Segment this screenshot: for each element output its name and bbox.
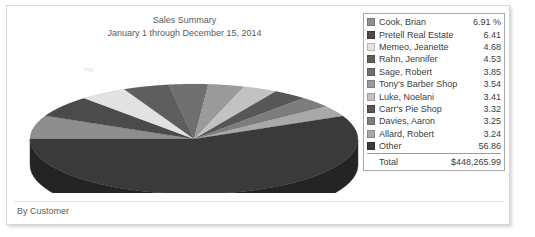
legend-item[interactable]: Allard, Robert3.24 [367,128,501,140]
chart-group-caption: By Customer [17,206,69,216]
pie-chart-svg [28,51,360,193]
legend-color-swatch [367,80,375,88]
legend-color-swatch [367,93,375,101]
chart-title-block: Sales Summary January 1 through December… [7,14,362,40]
report-frame: Sales Summary January 1 through December… [6,5,510,225]
page-title: Sales Summary [7,14,362,27]
legend-rows: Cook, Brian6.91 %Pretell Real Estate6.41… [367,16,501,168]
legend-item[interactable]: Memeo, Jeanette4.68 [367,41,501,53]
legend-item-label: Other [379,141,474,151]
legend-item-value: 56.86 [474,141,501,151]
legend-item[interactable]: Tony's Barber Shop3.54 [367,78,501,90]
legend-item[interactable]: Davies, Aaron3.25 [367,115,501,127]
legend-item-value: 4.53 [479,54,501,64]
legend-item-label: Davies, Aaron [379,116,479,126]
pie-chart[interactable]: 7% [28,51,360,193]
legend-item-label: Cook, Brian [379,17,469,27]
legend-item-label: Tony's Barber Shop [379,79,479,89]
legend-item[interactable]: Cook, Brian6.91 % [367,16,501,28]
legend-item-label: Pretell Real Estate [379,30,479,40]
legend-item-label: Memeo, Jeanette [379,42,479,52]
legend-total-label: Total [379,157,447,167]
legend-color-swatch [367,105,375,113]
legend-color-swatch [367,43,375,51]
legend-item-value: 3.32 [479,104,501,114]
legend-item[interactable]: Carr's Pie Shop3.32 [367,103,501,115]
legend-item-value: 6.41 [479,30,501,40]
legend-item[interactable]: Luke, Noelani3.41 [367,90,501,102]
legend-color-swatch [367,68,375,76]
legend-color-swatch [367,55,375,63]
legend-color-swatch [367,142,375,150]
legend-color-swatch [367,130,375,138]
legend-total-spacer [367,158,375,166]
page-subtitle: January 1 through December 15, 2014 [7,27,362,40]
legend-item[interactable]: Rahn, Jennifer4.53 [367,53,501,65]
legend-item-value: 3.54 [479,79,501,89]
legend-color-swatch [367,31,375,39]
pie-slice-label-faint: 7% [84,67,93,73]
legend-color-swatch [367,117,375,125]
legend-color-swatch [367,18,375,26]
legend-item-label: Carr's Pie Shop [379,104,479,114]
legend-total-row: Total$448,265.99 [367,153,501,168]
legend-item-label: Luke, Noelani [379,92,479,102]
legend-item-value: 4.68 [479,42,501,52]
legend-item[interactable]: Pretell Real Estate6.41 [367,28,501,40]
footer-divider [14,201,504,202]
legend-item-value: 3.24 [479,129,501,139]
pie-top-faces [30,84,358,193]
legend-item-label: Allard, Robert [379,129,479,139]
legend-item-label: Rahn, Jennifer [379,54,479,64]
legend-item-value: 6.91 % [469,17,501,27]
legend-item-value: 3.85 [479,67,501,77]
chart-legend[interactable]: Cook, Brian6.91 %Pretell Real Estate6.41… [363,13,505,171]
legend-total-value: $448,265.99 [447,157,501,167]
legend-item-value: 3.25 [479,116,501,126]
legend-item-label: Sage, Robert [379,67,479,77]
legend-item[interactable]: Other56.86 [367,140,501,152]
legend-item[interactable]: Sage, Robert3.85 [367,66,501,78]
legend-item-value: 3.41 [479,92,501,102]
